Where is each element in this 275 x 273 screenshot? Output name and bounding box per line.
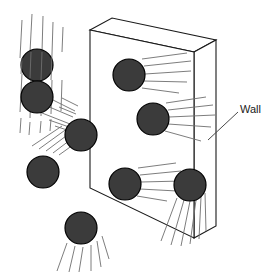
particle-5	[65, 212, 97, 244]
wall-label: Wall	[240, 103, 261, 115]
particle-2	[21, 81, 53, 113]
particle-6	[113, 59, 145, 91]
particle-8	[109, 168, 141, 200]
wall-collision-diagram: Wall	[0, 0, 275, 273]
particle-4	[27, 156, 59, 188]
particle-1	[21, 49, 53, 81]
particle-9	[174, 169, 206, 201]
particle-3	[65, 119, 97, 151]
diagram-canvas: Wall	[0, 0, 275, 273]
particle-7	[137, 103, 169, 135]
